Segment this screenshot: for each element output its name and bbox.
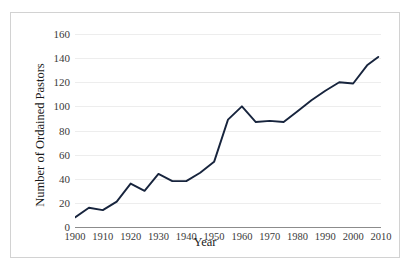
plot-area: 020406080100120140160 190019101920193019… (75, 34, 381, 227)
series-svg (75, 34, 381, 227)
y-tick-label: 100 (54, 100, 71, 112)
x-axis-line (75, 227, 381, 228)
y-tick-label: 60 (59, 149, 70, 161)
line-series-ordained-pastors (75, 57, 378, 217)
y-tick-label: 120 (54, 76, 71, 88)
y-tick-label: 40 (59, 173, 70, 185)
x-axis-title: Year (11, 235, 399, 250)
y-tick-label: 140 (54, 52, 71, 64)
chart-frame: Number of Ordained Pastors 0204060801001… (10, 12, 400, 258)
y-tick-label: 160 (54, 28, 71, 40)
y-tick-label: 80 (59, 125, 70, 137)
y-axis-title: Number of Ordained Pastors (33, 50, 48, 220)
y-tick-label: 20 (59, 197, 70, 209)
